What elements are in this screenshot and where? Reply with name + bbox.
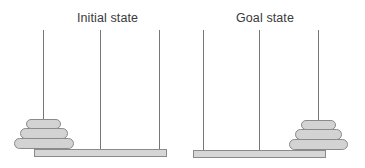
base-platform [193,150,326,158]
disc-medium [295,129,342,140]
peg-1 [203,30,204,150]
initial-state-title: Initial state [77,11,138,25]
peg-2 [100,30,101,149]
goal-state-title: Goal state [236,11,294,25]
peg-3 [318,30,319,120]
base-platform [34,149,167,157]
initial-state-panel: Initial state [0,0,180,168]
disc-small [301,120,336,130]
goal-state-panel: Goal state [180,0,365,168]
peg-3 [159,30,160,149]
disc-large [289,139,348,150]
disc-small [26,119,61,129]
disc-medium [20,128,68,139]
disc-large [14,138,74,149]
peg-2 [259,30,260,150]
